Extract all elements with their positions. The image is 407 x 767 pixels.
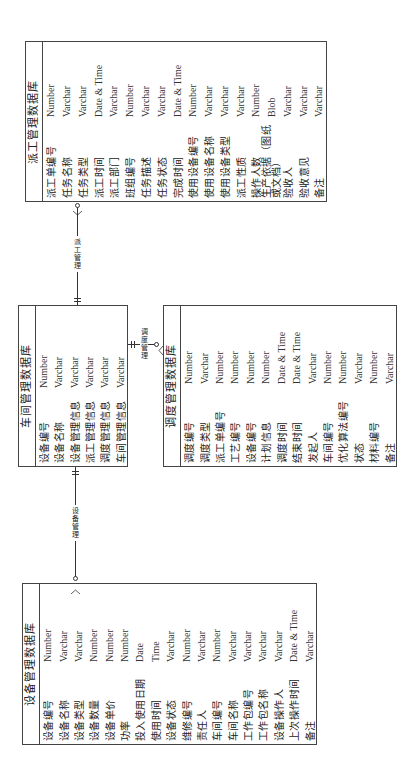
field-type: Varchar — [156, 86, 167, 117]
field-type: Varchar — [140, 86, 151, 117]
field-name: 计划信息 — [258, 384, 273, 466]
field-type: Varchar — [235, 86, 246, 117]
one-tick-icon — [74, 298, 81, 299]
table-row: 设备名称Varchar — [55, 584, 70, 744]
field-name: 设备编号 — [36, 388, 51, 466]
table-row: 车间编号Number — [209, 584, 224, 744]
field-type: Number — [322, 351, 333, 384]
table-dispatch: 派工管理数据库派工单编号Number任务名称Varchar任务类型Varchar… — [25, 41, 327, 202]
field-type: Varchar — [203, 86, 214, 117]
field-name: 班组编号 — [122, 117, 137, 201]
relation-label-dispatch: 派工管理 — [73, 236, 81, 272]
field-name: 派工性质 — [233, 117, 248, 201]
field-name: 结束时间 — [289, 384, 304, 466]
field-type: Date & Time — [93, 65, 104, 117]
table-dispatch-body: 派工管理数据库派工单编号Number任务名称Varchar任务类型Varchar… — [25, 41, 327, 202]
field-name: 设备类型 — [71, 662, 86, 744]
table-row: 计划信息Number — [258, 306, 273, 466]
field-type: Number — [88, 629, 99, 662]
field-name: 备注 — [302, 662, 317, 744]
table-title: 派工管理数据库 — [26, 42, 43, 201]
table-row: 结束时间Date & Time — [289, 306, 304, 466]
table-row: 材料编号Number — [366, 306, 381, 466]
table-row: 状态Varchar — [351, 306, 366, 466]
field-name: 派工部门 — [106, 117, 121, 201]
one-tick-icon — [72, 474, 79, 475]
table-title: 设备管理数据库 — [23, 584, 40, 744]
table-row: 维修编号Number — [178, 584, 193, 744]
field-type: Varchar — [384, 353, 395, 384]
field-type: Varchar — [115, 357, 126, 388]
field-type: Varchar — [77, 86, 88, 117]
field-type: Varchar — [53, 357, 64, 388]
table-row: 班组编号Number — [122, 42, 138, 201]
field-name: 设备数量 — [86, 662, 101, 744]
one-tick-icon — [72, 471, 79, 472]
table-row: 使用设备编号Number — [185, 42, 201, 201]
field-type: Varchar — [304, 631, 315, 662]
table-row: 使用设备名称Varchar — [201, 42, 217, 201]
field-type: Varchar — [282, 86, 293, 117]
field-type: Varchar — [196, 631, 207, 662]
field-name: 任务描述 — [138, 117, 153, 201]
field-name: 车间编号 — [320, 384, 335, 466]
field-type: Number — [337, 351, 348, 384]
field-name: 工艺编号 — [227, 384, 242, 466]
field-type: Number — [214, 351, 225, 384]
field-name: 派工单编号 — [43, 117, 58, 201]
relation-label-scheduling: 调度管理 — [140, 326, 148, 362]
table-row: 调度类型Varchar — [196, 306, 211, 466]
table-row: 派工部门Varchar — [106, 42, 122, 201]
field-name: 车间管理信息 — [113, 388, 128, 466]
field-type: Varchar — [353, 353, 364, 384]
one-tick-icon — [131, 341, 132, 348]
field-name: 设备名称 — [51, 388, 66, 466]
table-title: 调度管理数据库 — [164, 306, 181, 466]
table-scheduling: 调度管理数据库调度编号Number调度类型Varchar派工单编号Number工… — [163, 305, 397, 467]
field-type: Number — [229, 351, 240, 384]
field-name: 工作包编号 — [240, 662, 255, 744]
table-row: 备注Varchar — [301, 584, 316, 744]
field-type: Varchar — [84, 357, 95, 388]
field-type: Number — [260, 351, 271, 384]
field-type: Varchar — [298, 86, 309, 117]
table-row: 备注Varchar — [311, 42, 327, 201]
field-name: 任务名称 — [59, 117, 74, 201]
field-type: Varchar — [69, 357, 80, 388]
field-name: 使用时间 — [148, 662, 163, 744]
table-row: 派工时间Date & Time — [90, 42, 106, 201]
field-name: 车间编号 — [209, 662, 224, 744]
field-name: 设备编号 — [243, 384, 258, 466]
table-row: 设备编号Number — [243, 306, 258, 466]
field-type: Varchar — [313, 86, 324, 117]
table-equipment-body: 设备管理数据库设备编号Number设备名称Varchar设备类型Varchar设… — [22, 583, 317, 745]
field-type: Number — [119, 629, 130, 662]
field-name: 调度编号 — [181, 384, 196, 466]
field-type: Varchar — [73, 631, 84, 662]
table-row: 派工性质Varchar — [232, 42, 248, 201]
field-name: 维修编号 — [179, 662, 194, 744]
table-row: 工作包名称Varchar — [255, 584, 270, 744]
field-name: 功率 — [117, 662, 132, 744]
field-name: 调度管理信息 — [97, 388, 112, 466]
field-type: Number — [211, 629, 222, 662]
field-type: Varchar — [219, 86, 230, 117]
table-row: 工作包编号Varchar — [240, 584, 255, 744]
table-row: 设备单价Number — [102, 584, 117, 744]
field-type: Varchar — [199, 353, 210, 384]
field-type: Varchar — [58, 631, 69, 662]
table-row: 车间编号Number — [320, 306, 335, 466]
field-type: Date & Time — [291, 332, 302, 384]
field-name: 派工时间 — [91, 117, 106, 201]
field-name: 发起人 — [305, 384, 320, 466]
field-name: 设备编号 — [40, 662, 55, 744]
table-row: 投入使用日期Date — [132, 584, 147, 744]
field-type: Number — [104, 629, 115, 662]
table-row: 设备数量Number — [86, 584, 101, 744]
field-type: Varchar — [227, 631, 238, 662]
table-row: 设备状态Varchar — [163, 584, 178, 744]
field-name: 材料编号 — [366, 384, 381, 466]
field-name: 设备名称 — [56, 662, 71, 744]
field-type: Number — [368, 351, 379, 384]
field-name: 验收人 — [280, 117, 295, 201]
